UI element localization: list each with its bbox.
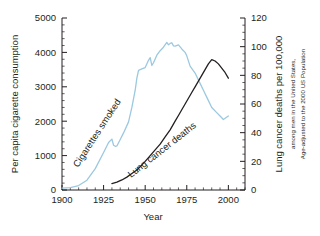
right-axis-subtitle-2: Age-adjusted to the 2000 US Population: [299, 48, 306, 159]
x-tick-label: 1925: [93, 194, 114, 205]
left-axis-title: Per capita cigarette consumption: [9, 35, 20, 173]
right-tick-label: 60: [251, 98, 262, 109]
x-tick-label: 1975: [176, 194, 197, 205]
x-axis-title: Year: [143, 211, 162, 222]
right-tick-label: 0: [251, 184, 256, 195]
left-tick-label: 3000: [35, 81, 56, 92]
right-tick-label: 80: [251, 70, 262, 81]
right-axis-subtitle-1: among men in the United States,: [289, 59, 296, 149]
right-tick-label: 20: [251, 156, 262, 167]
right-tick-label: 100: [251, 41, 267, 52]
left-tick-label: 2000: [35, 116, 56, 127]
left-tick-label: 1000: [35, 150, 56, 161]
chart-figure: 010002000300040005000 020406080100120 19…: [0, 0, 320, 236]
x-tick-label: 2000: [218, 194, 239, 205]
right-tick-label: 40: [251, 127, 262, 138]
left-tick-label: 5000: [35, 12, 56, 23]
dual-axis-line-chart: 010002000300040005000 020406080100120 19…: [0, 0, 320, 236]
x-tick-label: 1950: [135, 194, 156, 205]
left-tick-label: 4000: [35, 47, 56, 58]
right-axis-title: Lung cancer deaths per 100,000: [273, 36, 284, 173]
x-tick-label: 1900: [51, 194, 72, 205]
right-tick-label: 120: [251, 12, 267, 23]
